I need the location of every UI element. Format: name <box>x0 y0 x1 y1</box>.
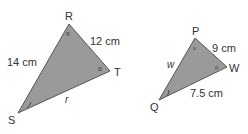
side-RT-label: 12 cm <box>90 35 120 47</box>
angle-P-label: x <box>193 45 196 51</box>
side-RS-label: 14 cm <box>7 56 37 68</box>
vertex-S-label: S <box>8 114 15 126</box>
triangle-PQW: P W Q w 9 cm 7.5 cm x o <box>150 25 240 113</box>
vertex-T-label: T <box>114 66 121 78</box>
vertex-P-label: P <box>192 25 199 37</box>
vertex-R-label: R <box>65 10 73 22</box>
angle-T-label: o <box>98 65 102 72</box>
side-PQ-label: w <box>167 59 175 70</box>
angle-R-label: x <box>66 30 70 37</box>
side-PW-label: 9 cm <box>212 42 236 54</box>
triangle-RST: R T S 14 cm 12 cm r x o <box>7 10 121 126</box>
vertex-W-label: W <box>229 62 240 74</box>
side-ST-label: r <box>65 94 69 105</box>
vertex-Q-label: Q <box>150 101 159 113</box>
similar-triangles-diagram: R T S 14 cm 12 cm r x o P W Q w 9 cm 7.5… <box>0 0 248 134</box>
side-QW-label: 7.5 cm <box>190 87 223 99</box>
